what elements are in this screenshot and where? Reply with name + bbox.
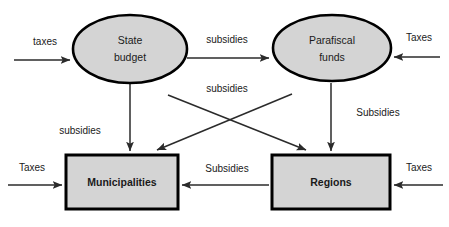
node-parafiscal-funds[interactable] <box>273 15 391 81</box>
edge-label-taxes-to-regions: Taxes <box>406 162 432 173</box>
edge-label-crossing-subsidies: subsidies <box>206 83 248 94</box>
edge-label-parafiscal-funds-to-regions: Subsidies <box>356 107 399 118</box>
edge-label-taxes-to-parafiscal-funds: Taxes <box>406 32 432 43</box>
node-parafiscal-funds-label-line2: funds <box>319 51 345 63</box>
arrow-state-budget-to-regions <box>168 95 306 150</box>
edge-label-taxes-to-municipalities: Taxes <box>19 162 45 173</box>
node-parafiscal-funds-label-line1: Parafiscal <box>309 34 355 46</box>
edge-label-taxes-to-state-budget: taxes <box>33 36 57 47</box>
edge-label-regions-to-municipalities: Subsidies <box>205 163 248 174</box>
edge-label-state-budget-to-parafiscal-funds: subsidies <box>206 34 248 45</box>
node-state-budget[interactable] <box>73 15 187 83</box>
node-state-budget-label-line2: budget <box>114 51 146 63</box>
arrow-parafiscal-funds-to-municipalities <box>157 94 292 150</box>
node-state-budget-label-line1: State <box>118 34 143 46</box>
node-municipalities-label: Municipalities <box>87 176 157 188</box>
fiscal-flow-diagram: State budget Parafiscal funds Municipali… <box>0 0 449 227</box>
node-regions-label: Regions <box>310 176 352 188</box>
edge-label-state-budget-to-municipalities: subsidies <box>59 125 101 136</box>
diagram-canvas: State budget Parafiscal funds Municipali… <box>0 0 449 227</box>
